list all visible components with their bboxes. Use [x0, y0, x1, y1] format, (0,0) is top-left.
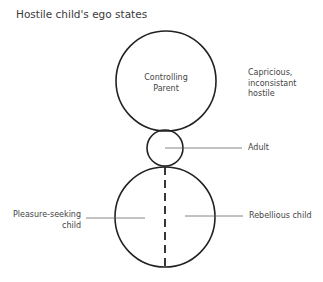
- pleasure-seeking-label: Pleasure-seeking child: [0, 210, 81, 231]
- parent-label-line2: Parent: [131, 84, 201, 95]
- parent-label-line1: Controlling: [131, 73, 201, 84]
- pleasure-label-line1: Pleasure-seeking: [0, 210, 81, 221]
- pleasure-label-line2: child: [0, 221, 81, 232]
- ego-state-diagram: [0, 0, 323, 282]
- rebellious-child-label: Rebellious child: [249, 211, 311, 222]
- annotation-line3: hostile: [248, 89, 296, 100]
- annotation-line2: inconsistant: [248, 79, 296, 90]
- hostile-annotation: Capricious, inconsistant hostile: [248, 68, 296, 100]
- adult-label: Adult: [248, 143, 269, 154]
- parent-label: Controlling Parent: [131, 73, 201, 94]
- annotation-line1: Capricious,: [248, 68, 296, 79]
